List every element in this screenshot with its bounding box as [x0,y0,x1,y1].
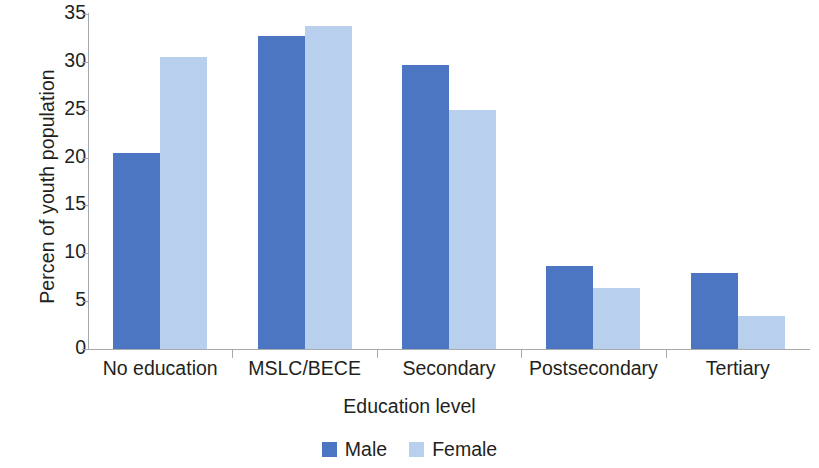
plot-area [88,14,810,349]
legend-swatch-female [409,442,424,457]
y-axis-tick-label: 15 [64,192,86,215]
bar-male [546,266,593,349]
bar-female [449,110,496,349]
x-axis-tick-label: MSLC/BECE [232,357,376,380]
y-axis-tick-label: 20 [64,145,86,168]
bar-male [258,36,305,349]
y-axis-tick-label: 0 [75,336,86,359]
legend-swatch-male [322,442,337,457]
x-axis-tick-label: Postsecondary [521,357,665,380]
bar-group [113,14,207,349]
y-axis-tick-label: 30 [64,49,86,72]
bar-female [160,57,207,349]
bar-group [402,14,496,349]
bar-chart-figure: Percen of youth population 0510152025303… [0,0,819,468]
bar-female [738,316,785,349]
legend-label: Male [345,440,387,460]
bar-male [402,65,449,349]
y-axis-tick-label: 5 [75,288,86,311]
x-axis-tick-label: No education [88,357,232,380]
y-axis-tick-label: 35 [64,1,86,24]
bar-group [258,14,352,349]
y-axis-tick-label: 25 [64,97,86,120]
legend-item: Female [409,440,497,460]
y-axis-title: Percen of youth population [36,22,59,352]
bar-male [691,273,738,349]
chart-legend: MaleFemale [0,440,819,460]
bar-female [593,288,640,349]
y-axis-tick-mark [82,349,89,350]
x-axis-tick-label: Secondary [377,357,521,380]
bar-group [691,14,785,349]
bar-female [305,26,352,350]
y-axis-tick-label: 10 [64,240,86,263]
bar-group [546,14,640,349]
bar-male [113,153,160,349]
x-axis-line [88,349,810,350]
x-axis-title: Education level [0,395,819,418]
legend-label: Female [432,440,497,460]
x-axis-tick-label: Tertiary [666,357,810,380]
legend-item: Male [322,440,387,460]
